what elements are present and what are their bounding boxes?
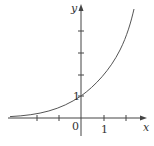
x-tick-label-1: 1 [101, 123, 108, 136]
exponential-graph: y x 0 1 1 [0, 0, 154, 146]
y-axis-label: y [70, 2, 78, 15]
y-axis-arrow-icon [79, 4, 84, 11]
exponential-curve [10, 9, 134, 117]
x-axis-label: x [143, 121, 150, 134]
x-axis-arrow-icon [140, 116, 147, 121]
origin-label: 0 [72, 120, 79, 133]
y-tick-label-1: 1 [73, 90, 80, 103]
